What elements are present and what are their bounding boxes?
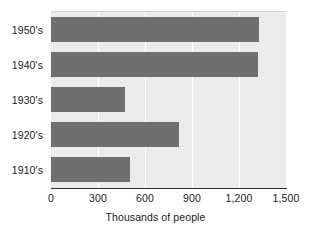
category-label: 1920's xyxy=(12,128,43,142)
x-tick-label: 1,500 xyxy=(273,191,300,205)
category-label: 1930's xyxy=(12,93,43,107)
category-label: 1910's xyxy=(12,163,43,177)
bar-1910s[interactable] xyxy=(51,157,130,182)
x-tick-label: 0 xyxy=(48,191,54,205)
bar-1920s[interactable] xyxy=(51,122,179,147)
bar-1930s[interactable] xyxy=(51,87,125,112)
bar-chart: 1950's 1940's 1930's 1920's 1910's 0 300… xyxy=(0,0,311,235)
category-label: 1940's xyxy=(12,58,43,72)
plot-area xyxy=(51,12,286,188)
x-tick-label: 300 xyxy=(89,191,107,205)
x-axis-line xyxy=(51,188,287,189)
bar-1950s[interactable] xyxy=(51,17,259,42)
bar-1940s[interactable] xyxy=(51,52,258,77)
x-tick-label: 1,200 xyxy=(226,191,253,205)
x-tick-label: 900 xyxy=(183,191,201,205)
category-label: 1950's xyxy=(12,23,43,37)
x-axis-title: Thousands of people xyxy=(0,211,311,223)
x-axis-ticks: 0 300 600 900 1,200 1,500 xyxy=(0,191,311,207)
category-axis: 1950's 1940's 1930's 1920's 1910's xyxy=(0,12,48,188)
x-tick-label: 600 xyxy=(136,191,154,205)
